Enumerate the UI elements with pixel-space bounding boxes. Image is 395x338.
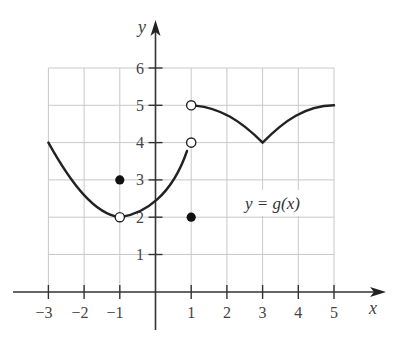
y-tick-label: 5 (136, 97, 144, 114)
y-tick-label: 3 (136, 171, 144, 188)
curve-piece-2 (195, 105, 334, 142)
open-point-icon (115, 213, 124, 222)
open-point-icon (187, 101, 196, 110)
y-tick-label: 4 (136, 134, 144, 151)
y-tick-label: 6 (136, 60, 144, 77)
graph-of-g: −3 −2 −1 1 2 3 4 5 1 2 3 4 5 6 x y y = g… (0, 0, 395, 338)
x-tick-label: −3 (35, 304, 52, 321)
x-tick-label: 4 (294, 304, 302, 321)
x-tick-label: −2 (71, 304, 88, 321)
x-tick-label: −1 (106, 304, 123, 321)
closed-point-icon (187, 213, 196, 222)
closed-point-icon (115, 175, 124, 184)
y-tick-label: 1 (136, 246, 144, 263)
y-axis-label: y (136, 17, 146, 37)
function-label: y = g(x) (243, 194, 300, 213)
open-point-icon (187, 138, 196, 147)
x-axis-label: x (368, 298, 377, 318)
x-tick-label: 5 (330, 304, 338, 321)
x-tick-label: 1 (187, 304, 195, 321)
x-tick-label: 3 (259, 304, 267, 321)
x-tick-label: 2 (223, 304, 231, 321)
